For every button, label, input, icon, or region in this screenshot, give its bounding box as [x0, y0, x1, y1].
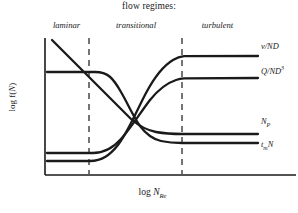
- regime-dividers: [89, 38, 182, 174]
- series-label-q-nd3-exponent: 3: [281, 65, 284, 71]
- y-axis-label-variable: N: [7, 86, 17, 92]
- series-label-tm-n: tmN: [261, 140, 273, 151]
- series-label-n-p-subscript: P: [267, 122, 271, 128]
- series-label-n-p: NP: [261, 117, 270, 128]
- axis-lines: [45, 38, 296, 175]
- curve-n-p: [52, 40, 258, 134]
- y-axis-label-prefix: log f(: [7, 92, 17, 112]
- y-axis-label-suffix: ): [7, 83, 17, 86]
- x-axis-label: log NRe: [45, 186, 260, 199]
- plot-area: [0, 0, 298, 213]
- series-curves: [47, 40, 258, 161]
- series-label-q-nd3: Q/ND3: [261, 65, 284, 76]
- series-label-tm-n-tail: N: [268, 140, 274, 149]
- figure-container: flow regimes: laminar transitional turbu…: [0, 0, 298, 213]
- x-axis-label-subscript: Re: [160, 192, 167, 199]
- x-axis-label-prefix: log: [138, 186, 153, 197]
- series-label-v-nd-text: v/ND: [261, 42, 279, 51]
- curve-q-nd3: [47, 78, 258, 153]
- y-axis-label: log f(N): [7, 66, 17, 128]
- series-label-q-nd3-text: Q/ND: [261, 67, 281, 76]
- series-label-v-nd: v/ND: [261, 42, 279, 51]
